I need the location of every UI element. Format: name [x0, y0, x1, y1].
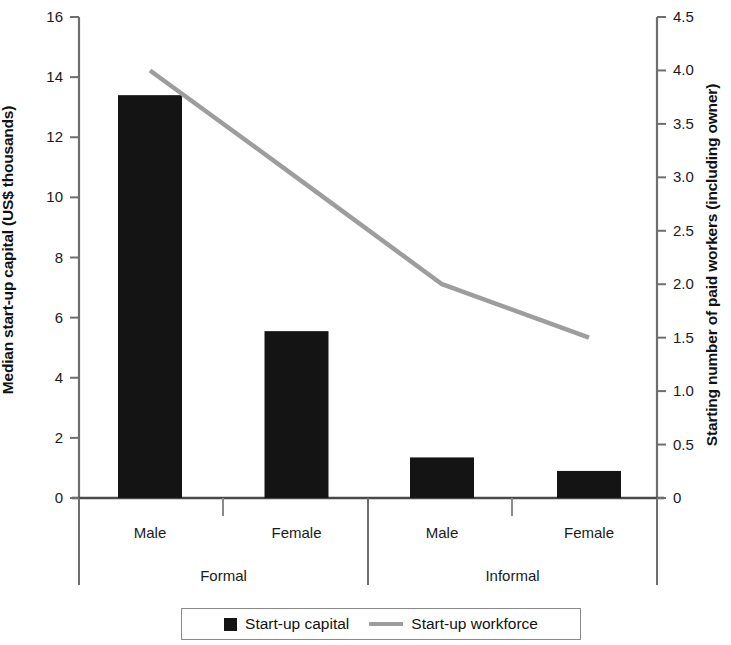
legend-label-start-up-capital: Start-up capital — [245, 615, 349, 633]
workforce-line — [150, 70, 589, 337]
y-axis-right-tick-label: 0.5 — [673, 437, 719, 452]
line-series-start-up-workforce — [150, 70, 589, 337]
y-axis-right-tick-label: 1.0 — [673, 383, 719, 398]
legend-item-start-up-workforce: Start-up workforce — [369, 615, 538, 633]
y-axis-left-ticks — [70, 17, 79, 498]
y-axis-right-tick-label: 0 — [673, 490, 719, 505]
legend-line-swatch-icon — [369, 622, 403, 626]
plot-area — [0, 0, 731, 645]
x-axis-category-label: Male — [382, 525, 502, 540]
y-axis-left-tick-label: 4 — [17, 370, 63, 385]
y-axis-left-tick-label: 6 — [17, 310, 63, 325]
y-axis-right-ticks — [657, 17, 666, 498]
legend-label-start-up-workforce: Start-up workforce — [411, 615, 538, 633]
y-axis-right-tick-label: 4.0 — [673, 62, 719, 77]
y-axis-left-tick-label: 14 — [17, 69, 63, 84]
x-axis-category-label: Female — [237, 525, 357, 540]
y-axis-left-tick-label: 12 — [17, 129, 63, 144]
legend-item-start-up-capital: Start-up capital — [224, 615, 349, 633]
y-axis-right-tick-label: 2.5 — [673, 223, 719, 238]
bar — [118, 95, 182, 498]
y-axis-left-tick-label: 0 — [17, 490, 63, 505]
y-axis-right-tick-label: 1.5 — [673, 330, 719, 345]
y-axis-right-tick-label: 2.0 — [673, 276, 719, 291]
x-axis-category-label: Female — [529, 525, 649, 540]
chart-legend: Start-up capital Start-up workforce — [181, 608, 581, 640]
bar — [557, 471, 621, 498]
bar — [265, 331, 329, 498]
chart-container: Median start-up capital (US$ thousands) … — [0, 0, 731, 645]
x-axis-group-label: Informal — [433, 568, 593, 583]
y-axis-right-tick-label: 4.5 — [673, 9, 719, 24]
y-axis-left-tick-label: 2 — [17, 430, 63, 445]
y-axis-right-tick-label: 3.0 — [673, 169, 719, 184]
bar — [410, 457, 474, 498]
y-axis-left-tick-label: 8 — [17, 250, 63, 265]
y-axis-right-tick-label: 3.5 — [673, 116, 719, 131]
y-axis-left-title: Median start-up capital (US$ thousands) — [0, 0, 16, 500]
x-axis-category-label: Male — [90, 525, 210, 540]
x-axis-group-label: Formal — [144, 568, 304, 583]
y-axis-left-tick-label: 16 — [17, 9, 63, 24]
legend-bar-swatch-icon — [224, 618, 237, 631]
y-axis-left-tick-label: 10 — [17, 189, 63, 204]
bar-series-start-up-capital — [118, 95, 621, 498]
